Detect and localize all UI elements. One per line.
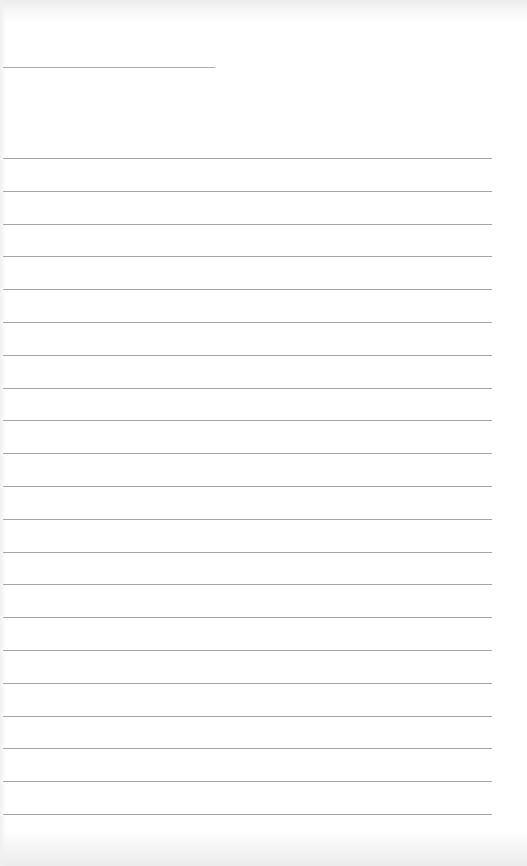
ruled-line [3,289,492,290]
header-name-line [3,67,215,68]
ruled-line [3,256,492,257]
paper-edge-shadow [0,0,6,866]
ruled-line [3,355,492,356]
ruled-line [3,224,492,225]
ruled-line [3,781,492,782]
ruled-line [3,420,492,421]
ruled-line [3,519,492,520]
ruled-line [3,552,492,553]
ruled-line [3,748,492,749]
ruled-line [3,617,492,618]
ruled-line [3,158,492,159]
ruled-line [3,388,492,389]
ruled-line [3,191,492,192]
ruled-line [3,486,492,487]
ruled-line [3,716,492,717]
ruled-line [3,322,492,323]
ruled-line [3,453,492,454]
ruled-line [3,650,492,651]
lined-paper-page [0,0,527,866]
ruled-line [3,683,492,684]
ruled-line [3,584,492,585]
ruled-line [3,814,492,815]
